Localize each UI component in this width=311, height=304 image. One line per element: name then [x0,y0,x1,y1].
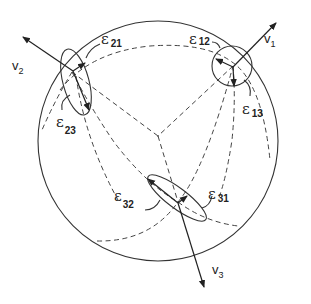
label-v1: v1 [264,31,276,49]
sphere-error-ellipses-diagram: v1 v2 v3 ε21 ε23 ε12 ε13 ε32 ε31 [0,0,311,304]
center-vertex [157,135,159,137]
axis-v3-group [142,168,212,287]
label-v3: v3 [212,262,224,280]
axis-v2-arrow [23,37,73,71]
label-epsilon-21: ε21 [101,30,122,49]
error-arrow-12 [216,59,233,67]
label-epsilon-32: ε32 [114,187,134,210]
label-epsilon-12: ε12 [189,30,210,48]
label-epsilon-23: ε23 [56,113,76,136]
error-arrow-13 [233,67,234,86]
label-v2: v2 [12,58,24,76]
error-arrow-31 [178,196,187,203]
great-circle-arcs [42,45,270,241]
label-epsilon-13: ε13 [242,100,263,119]
error-ellipse-2 [55,46,98,118]
error-arrow-21 [73,63,85,71]
axis-v2-group [23,37,100,118]
label-epsilon-31: ε31 [208,185,229,204]
error-ellipse-3 [142,168,212,227]
